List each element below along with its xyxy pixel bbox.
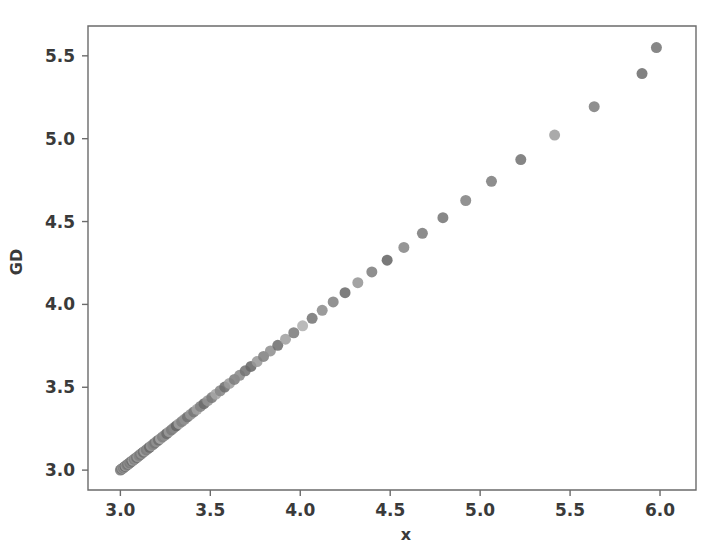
scatter-point (288, 327, 299, 338)
scatter-point (460, 195, 471, 206)
scatter-point (437, 212, 448, 223)
scatter-point (589, 101, 600, 112)
scatter-point (651, 42, 662, 53)
y-tick-label: 5.0 (45, 129, 75, 149)
scatter-point (317, 305, 328, 316)
scatter-point (328, 296, 339, 307)
scatter-point (352, 277, 363, 288)
x-axis-label: x (401, 525, 412, 544)
y-tick-label: 3.0 (45, 460, 75, 480)
x-tick-label: 5.0 (465, 500, 495, 520)
y-tick-label: 4.5 (45, 212, 75, 232)
x-tick-label: 4.0 (285, 500, 315, 520)
scatter-point (486, 176, 497, 187)
x-tick-label: 6.0 (645, 500, 675, 520)
scatter-point (366, 266, 377, 277)
scatter-point (417, 228, 428, 239)
scatter-point (398, 242, 409, 253)
y-tick-label: 4.0 (45, 294, 75, 314)
scatter-point (637, 68, 648, 79)
scatter-point (515, 154, 526, 165)
scatter-point (549, 130, 560, 141)
scatter-point (307, 313, 318, 324)
x-tick-label: 3.5 (195, 500, 225, 520)
x-tick-label: 3.0 (105, 500, 135, 520)
scatter-plot-figure: 3.03.54.04.55.05.56.0 3.03.54.04.55.05.5… (0, 0, 718, 560)
scatter-point (297, 320, 308, 331)
x-tick-label: 4.5 (375, 500, 405, 520)
x-tick-label: 5.5 (555, 500, 585, 520)
y-tick-label: 5.5 (45, 46, 75, 66)
plot-canvas: 3.03.54.04.55.05.56.0 3.03.54.04.55.05.5… (0, 0, 718, 560)
scatter-point (340, 287, 351, 298)
y-axis-label: GD (7, 249, 26, 275)
scatter-point (382, 255, 393, 266)
y-tick-label: 3.5 (45, 377, 75, 397)
